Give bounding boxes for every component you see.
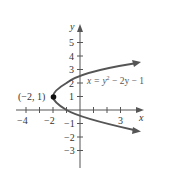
x-tick-label-neg4: −4 — [17, 115, 28, 126]
y-tick-label-3: 3 — [69, 64, 74, 75]
y-tick-label-neg1: −1 — [64, 118, 75, 129]
y-tick-label-4: 4 — [69, 51, 74, 62]
y-tick-label-5: 5 — [69, 37, 74, 48]
x-axis-label: x — [138, 112, 144, 123]
y-tick-label-neg3: −3 — [64, 145, 75, 156]
equation-suffix: − 2y − 1 — [110, 76, 145, 86]
y-axis-arrow-icon — [77, 24, 83, 32]
parabola-chart: y x −4 −2 3 5 4 3 2 1 −1 −2 −3 (−2, 1) x… — [0, 0, 171, 173]
equation-prefix: x = y — [86, 76, 107, 86]
x-tick-label-3: 3 — [118, 115, 123, 126]
y-tick-label-2: 2 — [69, 78, 74, 89]
equation-label: x = y2 − 2y − 1 — [86, 75, 144, 86]
curve-arrow-top-icon — [132, 60, 141, 67]
y-tick-label-neg2: −2 — [64, 132, 75, 143]
y-tick-label-1: 1 — [69, 91, 74, 102]
y-axis-label: y — [69, 21, 75, 32]
vertex-label: (−2, 1) — [18, 91, 45, 103]
curve-arrow-bottom-icon — [132, 127, 141, 134]
x-tick-label-neg2: −2 — [44, 115, 55, 126]
vertex-point — [51, 94, 57, 100]
